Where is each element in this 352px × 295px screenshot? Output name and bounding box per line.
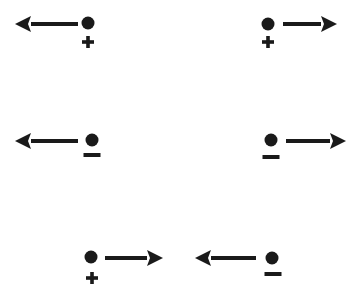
minus-sign-icon — [84, 153, 101, 157]
particle-dot-icon — [266, 252, 279, 265]
row-mixed: positive charge moving rightnegative cha… — [85, 250, 282, 284]
row-positive: positive charge moving leftpositive char… — [15, 16, 337, 48]
diagram-canvas: positive charge moving leftpositive char… — [0, 0, 352, 295]
arrow-right-icon — [286, 133, 346, 149]
row-negative: negative charge moving leftnegative char… — [15, 133, 346, 159]
negative-charge-particle: negative charge moving left — [15, 133, 101, 157]
positive-charge-particle: positive charge moving right — [85, 250, 164, 284]
positive-charge-particle: positive charge moving right — [262, 16, 338, 48]
particle-dot-icon — [86, 134, 99, 147]
arrow-right-icon — [105, 250, 163, 266]
particle-dot-icon — [262, 18, 275, 31]
positive-charge-particle: positive charge moving left — [15, 16, 95, 48]
minus-sign-icon — [263, 155, 280, 159]
particle-dot-icon — [82, 17, 95, 30]
arrow-left-icon — [15, 16, 78, 32]
negative-charge-particle: negative charge moving right — [263, 133, 347, 159]
minus-sign-icon — [265, 272, 282, 276]
particle-dot-icon — [85, 251, 98, 264]
arrow-left-icon — [195, 250, 256, 266]
particle-dot-icon — [265, 134, 278, 147]
arrow-right-icon — [283, 16, 337, 32]
arrow-left-icon — [15, 133, 78, 149]
plus-sign-icon — [262, 36, 274, 48]
negative-charge-particle: negative charge moving left — [195, 250, 282, 276]
plus-sign-icon — [86, 272, 98, 284]
plus-sign-icon — [82, 36, 94, 48]
